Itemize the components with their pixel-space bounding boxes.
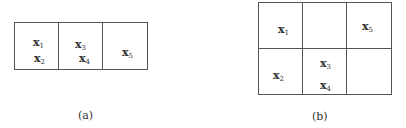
figure-b-divider-1 [302,2,303,95]
figure-b-cell-5-var-1: x3 [320,58,331,71]
figure-a-cell-2-var-2: x4 [79,53,90,66]
figure-a-cell-1-var-1: x1 [33,37,44,50]
figure-a-cell-3-var-1: x5 [122,47,133,60]
figure-b-row-divider [258,48,392,49]
figure-b-caption: (b) [312,111,328,122]
figure-a-divider-2 [102,22,103,70]
figure-a-caption: (a) [78,110,93,121]
figure-a-cell-2-var-1: x3 [75,39,86,52]
figure-a-divider-1 [58,22,59,70]
figure-a-cell-1-var-2: x2 [34,53,45,66]
figure-b-cell-3-var-1: x5 [362,21,373,34]
figure-b-cell-1-var-1: x1 [278,24,289,37]
figure-b-cell-5-var-2: x4 [320,80,331,93]
figure-b-cell-4-var-1: x2 [273,70,284,83]
figure-b-divider-2 [346,2,347,95]
